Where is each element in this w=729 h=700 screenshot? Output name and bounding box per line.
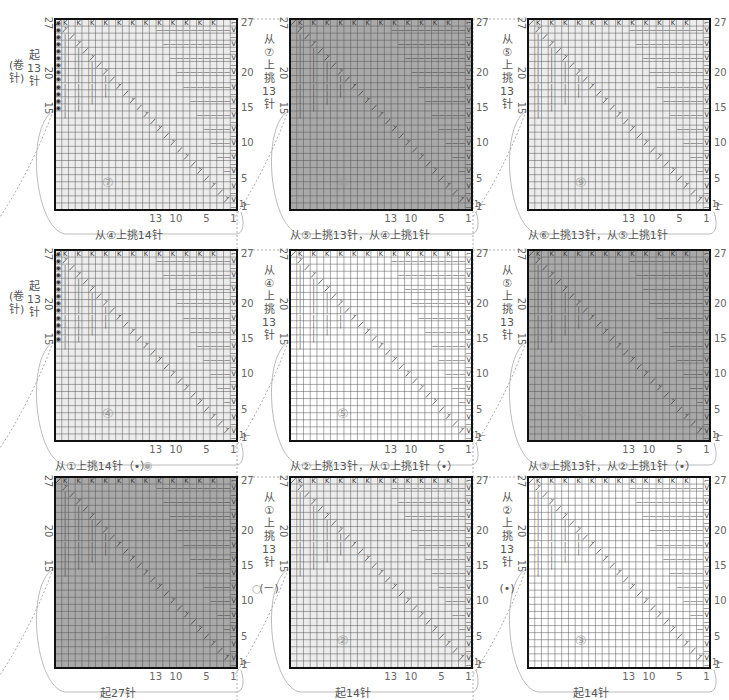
side-text: ① [262,504,276,517]
row-label-27: 27 [714,476,727,486]
col-label-1: 1 [703,214,709,224]
left-row-label-15: 15 [516,102,526,115]
chart-caption-4: 从①上挑14针（•） [55,457,151,473]
svg-text:|: | [339,90,341,98]
row-label-15: 15 [241,334,254,344]
svg-text:|: | [564,97,566,105]
row-direction-arrow: 1← [712,659,724,667]
side-text: 针 [500,329,514,342]
svg-text:|: | [312,562,314,570]
row-label-15: 15 [476,561,489,571]
knitting-chart-5: KKKKKKKKKKKK⌐———————————V˃|—|——————————V… [290,250,472,441]
row-label-5: 5 [714,632,720,642]
col-label-10: 10 [170,214,183,224]
side-text: 起 [27,280,41,293]
col-label-5: 5 [438,672,444,682]
svg-text:K: K [90,19,95,27]
row-label-5: 5 [476,174,482,184]
row-label-10: 10 [476,596,489,606]
knitting-chart-9: KKKKKKKKKKKK⌐———————————V˃|—|——————————V… [528,19,710,210]
col-label-1: 1 [230,445,236,455]
left-row-label-20: 20 [516,66,526,79]
left-row-label-15: 15 [43,560,53,573]
row-direction-arrow: 1← [474,432,486,440]
svg-text:K: K [130,19,135,27]
svg-text:K: K [603,19,608,27]
side-text: ② [500,504,514,517]
side-text: 挑 [500,72,514,85]
col-label-1: 1 [230,672,236,682]
svg-text:|: | [64,342,66,350]
row-label-27: 27 [476,476,489,486]
row-label-5: 5 [714,174,720,184]
chart-caption-7: 从④上挑14针 [95,226,163,242]
svg-text:K: K [144,19,149,27]
col-label-10: 10 [643,445,656,455]
chart-caption-6: 从③上挑13针，从②上挑1针（•） [528,457,696,473]
col-label-5: 5 [676,214,682,224]
row-label-5: 5 [476,405,482,415]
left-row-label-27: 27 [43,17,53,30]
row-label-20: 20 [476,68,489,78]
row-label-10: 10 [241,596,254,606]
svg-text:K: K [76,19,81,27]
chart-number-badge: ⑤ [337,406,349,421]
row-label-27: 27 [714,18,727,28]
left-row-label-27: 27 [516,17,526,30]
svg-text:K: K [311,250,316,258]
row-label-20: 20 [241,299,254,309]
side-text: ⑦ [262,46,276,59]
col-label-5: 5 [203,445,209,455]
col-label-5: 5 [203,672,209,682]
svg-text:K: K [617,19,622,27]
col-label-13: 13 [384,445,397,455]
col-label-10: 10 [170,445,183,455]
chart-caption-1: 起27针 [100,684,136,700]
chart-number-badge: ① [102,633,114,648]
col-label-10: 10 [405,672,418,682]
svg-text:|: | [77,335,79,343]
col-label-1: 1 [703,445,709,455]
col-label-10: 10 [643,214,656,224]
side-text: ⑤ [500,46,514,59]
svg-text:|: | [577,548,579,556]
side-text: 针 [262,98,276,111]
svg-text:|: | [537,111,539,119]
side-text: ④ [262,277,276,290]
col-label-13: 13 [622,445,635,455]
chart-grid: KKKKKKKKKKKK⌐———————————V˃|—|——————————V… [528,250,710,441]
svg-text:|: | [77,562,79,570]
row-direction-arrow: 1← [474,201,486,209]
row-label-10: 10 [241,138,254,148]
row-label-27: 27 [241,18,254,28]
svg-text:K: K [144,250,149,258]
svg-text:|: | [326,97,328,105]
side-text: 13 [262,85,276,98]
row-label-15: 15 [476,334,489,344]
left-row-label-20: 20 [43,66,53,79]
side-text: 从 [262,491,276,504]
svg-text:K: K [365,477,370,485]
col-label-1: 1 [465,445,471,455]
chart-grid: KKKKKKKKKKKK⌐———————————V˃|—|——————————V… [528,477,710,668]
chart-number-badge: ⑥ [575,406,587,421]
svg-text:K: K [563,19,568,27]
row-direction-arrow: 1← [239,201,251,209]
svg-text:K: K [103,19,108,27]
svg-text:K: K [325,250,330,258]
side-instruction-2: 从①上挑13针 [262,491,276,569]
side-text: 13 [500,85,514,98]
row-label-10: 10 [714,596,727,606]
svg-text:|: | [91,555,93,563]
col-label-1: 1 [465,672,471,682]
col-label-1: 1 [465,214,471,224]
row-label-15: 15 [714,103,727,113]
side-text: 从 [500,491,514,504]
svg-text:K: K [90,477,95,485]
knitting-chart-4: ◉KKKKKKKKKKKK⌐◉———————————V˃◉|—◉|———————… [55,250,237,441]
row-direction-arrow: 1← [712,432,724,440]
side-text: 上 [262,59,276,72]
svg-text:K: K [352,19,357,27]
knitting-chart-3: KKKKKKKKKKKK⌐———————————V˃|—|——————————V… [528,477,710,668]
row-direction-arrow: 1← [712,201,724,209]
